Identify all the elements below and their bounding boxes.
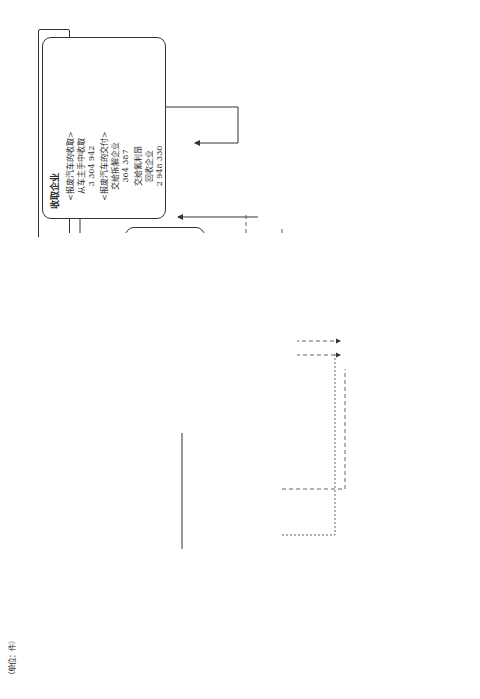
collector-deliver: <报废汽车的交付> 交给拆解企业 364 387 bbox=[100, 121, 132, 211]
collector-receive: <报废汽车的收取> 从车主手中收取 3 304 942 bbox=[66, 121, 98, 211]
collector-title: 收取企业 bbox=[48, 173, 61, 209]
recycling-flow-diagram: （单位：件） 汽车车主 收取企业 <报废汽车的收取> 从车主手中收取 3 304… bbox=[0, 0, 480, 699]
collector-fluoro: 交给氟利昂 回收企业 2 948 330 bbox=[134, 121, 166, 211]
unit-label: （单位：件） bbox=[6, 637, 17, 679]
